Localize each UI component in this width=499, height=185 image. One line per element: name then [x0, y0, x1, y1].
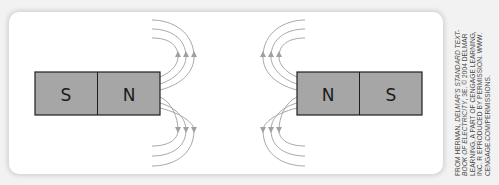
arrow-up-icon — [268, 51, 274, 57]
arrow-down-icon — [276, 127, 282, 133]
arrow-down-icon — [191, 127, 197, 133]
arrow-down-icon — [260, 127, 266, 133]
left-bar-magnet: S N — [35, 72, 160, 115]
caption-line: INC. R EPRODUCED BY PERMISSION. WWW. — [476, 6, 483, 176]
arrow-up-icon — [260, 51, 266, 57]
right-bar-magnet: N S — [297, 72, 422, 115]
caption-line: FROM HERMAN, DELMAR'S STANDARD TEXT- — [454, 6, 461, 176]
arrow-up-icon — [191, 51, 197, 57]
arrow-up-icon — [183, 51, 189, 57]
arrow-down-icon — [175, 127, 181, 133]
caption-line: BOOK OF ELECTRICITY, 3E. © 2004 DELMAR — [461, 6, 468, 176]
caption-line: LEARNING, A PART OF CENGAGE LEARNING, — [469, 6, 476, 176]
copyright-caption: FROM HERMAN, DELMAR'S STANDARD TEXT- BOO… — [454, 6, 491, 176]
arrow-up-icon — [276, 51, 282, 57]
south-pole-label: S — [61, 85, 72, 105]
north-pole-label: N — [123, 85, 136, 105]
arrow-down-icon — [268, 127, 274, 133]
caption-line: CENGAGE.COM/PERMISSIONS. — [484, 6, 491, 176]
north-pole-label: N — [322, 85, 335, 105]
arrow-down-icon — [183, 127, 189, 133]
arrow-up-icon — [175, 51, 181, 57]
magnet-field-diagram: S N N S — [0, 0, 499, 185]
south-pole-label: S — [386, 85, 397, 105]
